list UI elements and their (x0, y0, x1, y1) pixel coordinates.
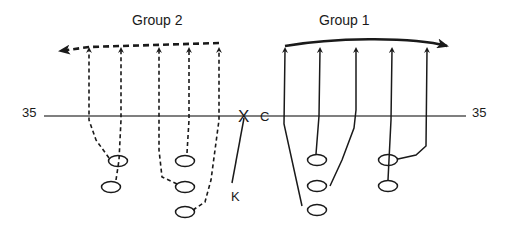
group-1-route-3 (330, 50, 356, 186)
kicker-path (232, 118, 244, 183)
group-2-route-4 (187, 50, 189, 153)
group-1-route-2 (316, 50, 320, 154)
player-oval (176, 156, 195, 167)
kicker-label: K (231, 190, 240, 203)
group-1-route-1 (284, 50, 302, 206)
group-2-players (102, 156, 195, 218)
group-2-sweep-arrow (60, 43, 219, 51)
player-oval (176, 207, 195, 218)
player-oval (379, 155, 398, 166)
play-diagram: Group 2 Group 1 35 35 X C K (0, 0, 510, 232)
player-oval (308, 155, 327, 166)
ball-x-marker: X (238, 108, 249, 125)
center-label: C (260, 110, 269, 123)
group-2-route-2 (116, 50, 121, 180)
player-oval (102, 182, 121, 193)
yard-label-left: 35 (22, 106, 36, 119)
group-1-sweep-arrow (285, 39, 447, 46)
group-2-route-1 (89, 50, 109, 158)
group-2-label: Group 2 (132, 13, 183, 27)
player-oval (379, 181, 398, 192)
player-oval (176, 182, 195, 193)
group-2-route-5 (193, 50, 219, 210)
group-2-route-3 (159, 50, 177, 184)
player-oval (308, 181, 327, 192)
group-1-label: Group 1 (319, 13, 370, 27)
group-1-players (308, 155, 398, 216)
group-2-routes (60, 43, 219, 210)
yard-label-right: 35 (472, 106, 486, 119)
group-1-route-5 (398, 50, 427, 159)
play-diagram-svg (0, 0, 510, 232)
player-oval (308, 205, 327, 216)
group-1-routes (284, 39, 447, 206)
group-1-route-4 (388, 50, 392, 180)
